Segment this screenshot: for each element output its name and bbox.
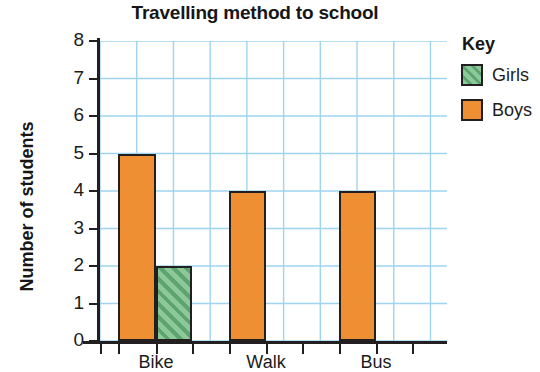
x-tick-label-walk: Walk bbox=[226, 352, 306, 372]
legend-swatch-girls bbox=[461, 64, 483, 86]
bar-chart: Travelling method to school Number of st… bbox=[0, 0, 540, 372]
y-tick-label-4: 4 bbox=[58, 179, 84, 201]
y-tick-1 bbox=[89, 303, 98, 305]
bars-layer bbox=[100, 41, 447, 341]
legend-item-boys: Boys bbox=[461, 99, 540, 121]
chart-title: Travelling method to school bbox=[95, 2, 415, 24]
x-tick-0 bbox=[100, 344, 102, 354]
y-tick-7 bbox=[89, 78, 98, 80]
y-tick-4 bbox=[89, 190, 98, 192]
legend-swatch-boys bbox=[461, 99, 483, 121]
y-tick-2 bbox=[89, 265, 98, 267]
y-tick-label-1: 1 bbox=[58, 292, 84, 314]
y-tick-label-8: 8 bbox=[58, 29, 84, 51]
y-tick-label-7: 7 bbox=[58, 67, 84, 89]
y-tick-5 bbox=[89, 153, 98, 155]
legend-item-girls: Girls bbox=[461, 64, 540, 86]
y-tick-3 bbox=[89, 228, 98, 230]
y-tick-label-0: 0 bbox=[58, 329, 84, 351]
bar-bike-boys bbox=[118, 154, 156, 342]
bar-bike-girls bbox=[156, 266, 192, 341]
x-tick-label-bike: Bike bbox=[116, 352, 196, 372]
y-tick-label-2: 2 bbox=[58, 254, 84, 276]
bar-walk-boys bbox=[229, 191, 266, 341]
y-tick-label-6: 6 bbox=[58, 104, 84, 126]
legend-label-boys: Boys bbox=[492, 100, 532, 121]
y-tick-6 bbox=[89, 115, 98, 117]
y-axis-label: Number of students bbox=[17, 107, 38, 307]
legend: Key GirlsBoys bbox=[461, 34, 540, 134]
legend-title: Key bbox=[462, 34, 540, 55]
bar-bus-boys bbox=[339, 191, 376, 341]
y-tick-8 bbox=[89, 40, 98, 42]
x-tick-label-bus: Bus bbox=[336, 352, 416, 372]
plot-area bbox=[100, 41, 447, 341]
x-axis-line bbox=[83, 341, 447, 344]
y-tick-0 bbox=[89, 340, 98, 342]
y-tick-label-3: 3 bbox=[58, 217, 84, 239]
y-tick-label-5: 5 bbox=[58, 142, 84, 164]
legend-label-girls: Girls bbox=[492, 65, 529, 86]
